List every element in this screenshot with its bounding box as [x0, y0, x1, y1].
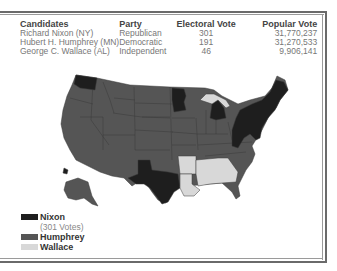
- map-legend: Nixon (301 Votes) Humphrey Wallace: [21, 212, 85, 252]
- legend-label: Nixon: [40, 212, 65, 222]
- legend-item-nixon: Nixon: [21, 212, 85, 222]
- map-region-minnesota: [172, 88, 186, 112]
- map-region-arkansas: [178, 156, 196, 174]
- map-region-northeast: [232, 80, 288, 148]
- legend-sublabel: (301 Votes): [21, 222, 85, 232]
- map-region-hawaii: [63, 168, 68, 174]
- legend-label: Humphrey: [40, 232, 85, 242]
- legend-swatch-nixon: [21, 214, 38, 220]
- legend-swatch-humphrey: [21, 234, 38, 240]
- legend-item-wallace: Wallace: [21, 242, 85, 252]
- legend-item-humphrey: Humphrey: [21, 232, 85, 242]
- map-region-alaska: [64, 178, 98, 206]
- legend-swatch-wallace: [21, 244, 38, 250]
- legend-label: Wallace: [40, 242, 73, 252]
